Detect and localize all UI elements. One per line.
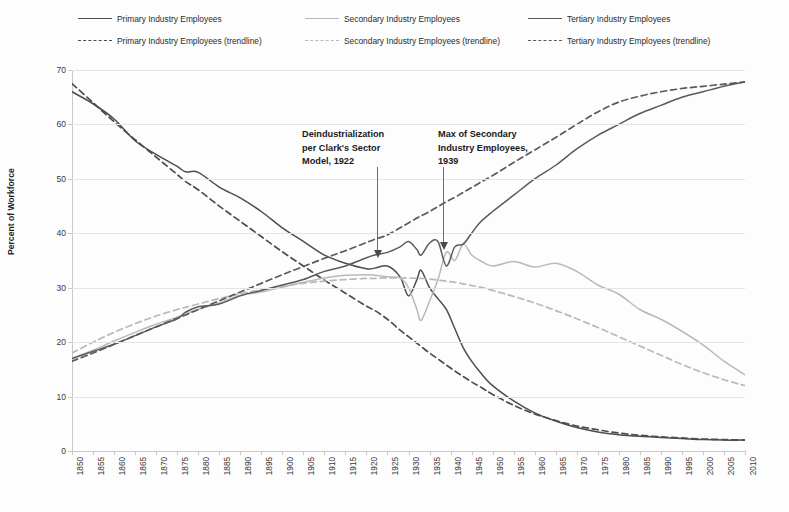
- x-tick-label: 1905: [307, 457, 316, 475]
- y-tick: [68, 342, 72, 343]
- deindustrialization-note-arrow-icon: [377, 167, 378, 251]
- x-tick: [682, 451, 683, 455]
- gridline: [72, 124, 745, 125]
- y-tick-label: 10: [56, 392, 66, 402]
- x-tick-label: 1910: [328, 457, 337, 475]
- x-tick-label: 1850: [76, 457, 85, 475]
- series-line: [72, 244, 745, 375]
- x-tick-label: 1895: [265, 457, 274, 475]
- x-tick-label: 1930: [412, 457, 421, 475]
- y-tick-label: 20: [56, 337, 66, 347]
- gridline: [72, 397, 745, 398]
- y-tick-label: 70: [56, 65, 66, 75]
- series-layer: [72, 70, 745, 451]
- x-tick: [556, 451, 557, 455]
- x-tick: [472, 451, 473, 455]
- y-tick: [68, 124, 72, 125]
- x-tick: [177, 451, 178, 455]
- y-tick-label: 40: [56, 228, 66, 238]
- legend-swatch-solid-icon: [78, 14, 112, 24]
- x-tick-label: 1925: [391, 457, 400, 475]
- x-tick-label: 1940: [454, 457, 463, 475]
- x-tick: [198, 451, 199, 455]
- chart-legend: Primary Industry EmployeesPrimary Indust…: [0, 8, 789, 56]
- legend-item[interactable]: Primary Industry Employees: [78, 8, 262, 30]
- y-tick-label: 30: [56, 283, 66, 293]
- x-tick-label: 2000: [706, 457, 715, 475]
- legend-swatch-solid-icon: [528, 14, 562, 24]
- x-tick-label: 1920: [370, 457, 379, 475]
- gridline: [72, 342, 745, 343]
- legend-item[interactable]: Primary Industry Employees (trendline): [78, 30, 262, 52]
- y-tick: [68, 233, 72, 234]
- x-tick-label: 1960: [538, 457, 547, 475]
- x-tick: [409, 451, 410, 455]
- x-tick: [703, 451, 704, 455]
- x-tick: [93, 451, 94, 455]
- x-tick-label: 1955: [517, 457, 526, 475]
- legend-swatch-dashed-icon: [305, 36, 339, 46]
- series-line: [72, 84, 745, 441]
- x-tick: [114, 451, 115, 455]
- x-tick-label: 1935: [433, 457, 442, 475]
- x-tick-label: 2010: [749, 457, 758, 475]
- legend-label: Tertiary Industry Employees (trendline): [567, 36, 710, 46]
- plot-area: 0102030405060701850185518601865187018751…: [72, 70, 745, 451]
- x-tick-label: 1865: [139, 457, 148, 475]
- x-tick: [345, 451, 346, 455]
- x-tick-label: 1995: [685, 457, 694, 475]
- x-tick: [240, 451, 241, 455]
- legend-swatch-solid-icon: [305, 14, 339, 24]
- y-tick: [68, 397, 72, 398]
- x-tick: [577, 451, 578, 455]
- x-tick-label: 1965: [559, 457, 568, 475]
- x-tick: [261, 451, 262, 455]
- legend-item[interactable]: Tertiary Industry Employees (trendline): [528, 30, 710, 52]
- legend-label: Primary Industry Employees: [117, 14, 222, 24]
- legend-label: Tertiary Industry Employees: [567, 14, 670, 24]
- x-tick-label: 1885: [223, 457, 232, 475]
- x-tick: [493, 451, 494, 455]
- chart-screenshot: Primary Industry EmployeesPrimary Indust…: [0, 0, 789, 512]
- legend-item[interactable]: Secondary Industry Employees (trendline): [305, 30, 500, 52]
- y-axis-title: Percent of Workforce: [6, 168, 16, 255]
- x-tick-label: 1915: [349, 457, 358, 475]
- x-tick: [724, 451, 725, 455]
- x-tick: [619, 451, 620, 455]
- y-tick-label: 50: [56, 174, 66, 184]
- max-secondary-note-arrow-icon: [443, 167, 444, 243]
- legend-column: Tertiary Industry EmployeesTertiary Indu…: [528, 8, 710, 52]
- x-tick: [640, 451, 641, 455]
- max-secondary-note: Max of Secondary Industry Employees, 193…: [438, 128, 528, 169]
- legend-column: Secondary Industry EmployeesSecondary In…: [305, 8, 500, 52]
- legend-item[interactable]: Secondary Industry Employees: [305, 8, 500, 30]
- legend-item[interactable]: Tertiary Industry Employees: [528, 8, 710, 30]
- x-tick-label: 1880: [202, 457, 211, 475]
- x-tick: [156, 451, 157, 455]
- x-tick: [387, 451, 388, 455]
- legend-label: Secondary Industry Employees: [344, 14, 460, 24]
- y-tick-label: 0: [61, 446, 66, 456]
- x-tick: [282, 451, 283, 455]
- gridline: [72, 233, 745, 234]
- x-tick-label: 1980: [622, 457, 631, 475]
- x-tick-label: 1950: [496, 457, 505, 475]
- x-tick: [514, 451, 515, 455]
- y-tick: [68, 179, 72, 180]
- y-tick-label: 60: [56, 119, 66, 129]
- x-tick-label: 2005: [727, 457, 736, 475]
- legend-swatch-dashed-icon: [528, 36, 562, 46]
- gridline: [72, 288, 745, 289]
- x-tick: [366, 451, 367, 455]
- gridline: [72, 179, 745, 180]
- x-tick-label: 1945: [475, 457, 484, 475]
- x-tick: [430, 451, 431, 455]
- series-line: [72, 278, 745, 386]
- x-tick: [135, 451, 136, 455]
- x-tick: [219, 451, 220, 455]
- x-tick: [303, 451, 304, 455]
- legend-swatch-dashed-icon: [78, 36, 112, 46]
- x-tick-label: 1970: [580, 457, 589, 475]
- legend-label: Secondary Industry Employees (trendline): [344, 36, 500, 46]
- x-tick: [451, 451, 452, 455]
